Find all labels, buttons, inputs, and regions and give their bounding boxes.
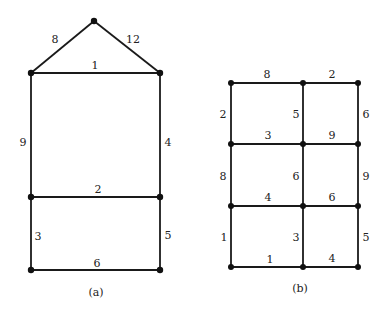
label-left-upper: 9 xyxy=(20,136,27,149)
node-r3c2 xyxy=(300,203,306,209)
label-right-upper: 4 xyxy=(165,136,172,149)
node-r4c3 xyxy=(355,264,361,270)
label-col2-lower: 3 xyxy=(293,231,300,244)
label-col1-middle: 8 xyxy=(220,170,227,183)
node-r3c3 xyxy=(355,203,361,209)
label-top: 1 xyxy=(92,59,99,72)
node-top-right xyxy=(157,70,163,76)
figure-a: 8 12 1 9 4 2 3 5 6 (a) xyxy=(20,18,172,299)
label-row4-right: 4 xyxy=(329,252,336,265)
label-col1-lower: 1 xyxy=(221,231,228,244)
node-r2c2 xyxy=(300,141,306,147)
node-top-left xyxy=(28,70,34,76)
caption-b: (b) xyxy=(292,282,308,295)
node-r2c3 xyxy=(355,141,361,147)
node-r3c1 xyxy=(228,203,234,209)
label-col3-upper: 6 xyxy=(363,108,370,121)
label-col2-upper: 5 xyxy=(293,108,300,121)
edge-apex-right xyxy=(94,21,160,73)
figure-b: 8 2 3 9 4 6 1 4 2 8 1 5 6 3 6 9 5 (b) xyxy=(220,68,370,295)
label-col3-lower: 5 xyxy=(363,231,370,244)
label-row4-left: 1 xyxy=(267,253,274,266)
label-apex-right: 12 xyxy=(126,33,140,46)
label-apex-left: 8 xyxy=(52,33,59,46)
label-row1-right: 2 xyxy=(329,68,336,81)
node-r1c1 xyxy=(228,80,234,86)
node-r4c1 xyxy=(228,264,234,270)
node-bottom-right xyxy=(157,267,163,273)
node-mid-right xyxy=(157,194,163,200)
node-r1c2 xyxy=(300,80,306,86)
label-left-lower: 3 xyxy=(35,230,42,243)
label-col2-middle: 6 xyxy=(293,170,300,183)
label-row1-left: 8 xyxy=(264,68,271,81)
node-bottom-left xyxy=(28,267,34,273)
label-row2-right: 9 xyxy=(329,129,336,142)
label-bottom: 6 xyxy=(94,257,101,270)
label-col1-upper: 2 xyxy=(220,108,227,121)
label-right-lower: 5 xyxy=(165,229,172,242)
node-r4c2 xyxy=(300,264,306,270)
graph-figures: 8 12 1 9 4 2 3 5 6 (a) xyxy=(0,0,386,314)
edge-apex-left xyxy=(31,21,94,73)
label-row3-left: 4 xyxy=(265,191,272,204)
node-r1c3 xyxy=(355,80,361,86)
node-r2c1 xyxy=(228,141,234,147)
label-col3-middle: 9 xyxy=(363,170,370,183)
label-middle: 2 xyxy=(95,183,102,196)
node-mid-left xyxy=(28,194,34,200)
label-row2-left: 3 xyxy=(265,129,272,142)
label-row3-right: 6 xyxy=(329,191,336,204)
caption-a: (a) xyxy=(88,286,103,299)
node-apex xyxy=(91,18,97,24)
